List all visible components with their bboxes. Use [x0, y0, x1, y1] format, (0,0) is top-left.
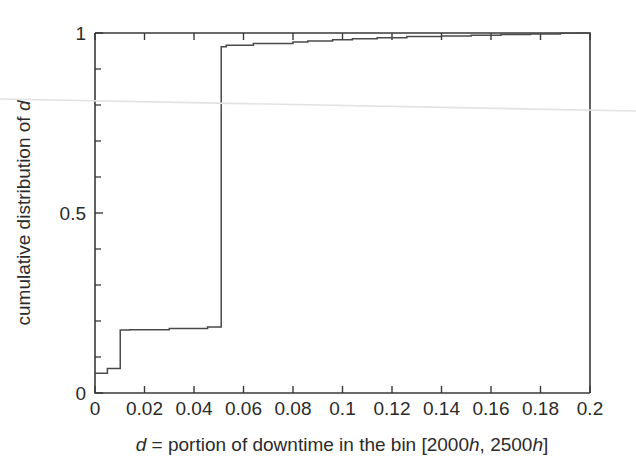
x-tick-label: 0.18: [522, 398, 559, 419]
y-axis-tick-labels: 00.51: [60, 23, 86, 404]
x-tick-label: 0.1: [329, 398, 355, 419]
chart-figure: 00.020.040.060.080.10.120.140.160.180.2 …: [0, 0, 636, 475]
axis-frame: [95, 33, 590, 393]
cdf-step-curve: [95, 33, 590, 373]
y-axis-title: cumulative distribution of d: [13, 99, 34, 325]
x-tick-label: 0.02: [126, 398, 163, 419]
x-tick-label: 0.04: [176, 398, 213, 419]
y-tick-label: 0.5: [60, 203, 86, 224]
x-tick-label: 0.08: [275, 398, 312, 419]
x-tick-label: 0.2: [577, 398, 603, 419]
cdf-plot: 00.020.040.060.080.10.120.140.160.180.2 …: [0, 0, 636, 475]
y-axis-ticks: [95, 33, 103, 393]
y-tick-label: 0: [75, 383, 86, 404]
x-axis-ticks: [95, 386, 590, 393]
x-axis-title: d = portion of downtime in the bin [2000…: [136, 434, 549, 455]
x-tick-label: 0.14: [423, 398, 460, 419]
x-tick-label: 0.16: [473, 398, 510, 419]
axis-frame-top-right: [95, 33, 590, 393]
x-tick-label: 0.12: [374, 398, 411, 419]
x-tick-label: 0.06: [225, 398, 262, 419]
y-tick-label: 1: [75, 23, 86, 44]
x-tick-label: 0: [90, 398, 101, 419]
x-axis-tick-labels: 00.020.040.060.080.10.120.140.160.180.2: [90, 398, 604, 419]
